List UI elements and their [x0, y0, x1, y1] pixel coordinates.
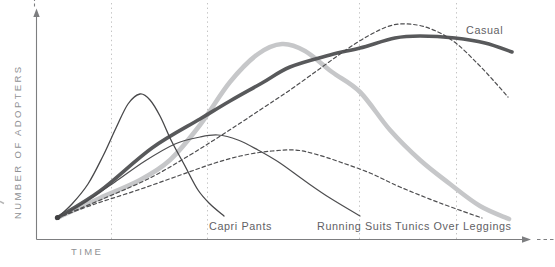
- curve-label-casual: Casual: [466, 24, 503, 36]
- y-axis-arrowhead-icon: [33, 9, 39, 18]
- fashion-lifecycle-figure: NUMBER OF ADOPTERS TIME Casual Capri Pan…: [0, 0, 555, 267]
- edge-artifact-mark: [0, 202, 4, 204]
- curve-label-running-suits: Running Suits: [317, 220, 392, 232]
- curve-label-tunics-over-leggings: Tunics Over Leggings: [395, 220, 512, 232]
- y-axis-label: NUMBER OF ADOPTERS: [11, 73, 25, 219]
- x-axis-label: TIME: [71, 246, 103, 257]
- curve-label-capri-pants: Capri Pants: [209, 220, 272, 232]
- curves-origin-point: [55, 215, 60, 220]
- curve-running-suits: [57, 135, 360, 218]
- x-axis-arrowhead-icon: [522, 236, 531, 242]
- curve-casual: [57, 36, 512, 218]
